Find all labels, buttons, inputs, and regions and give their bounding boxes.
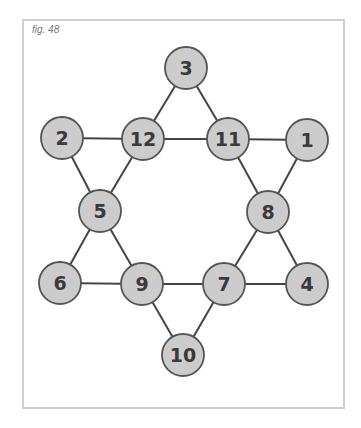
- node-10: 10: [162, 334, 204, 376]
- svg-text:6: 6: [53, 272, 66, 294]
- node-8: 8: [247, 191, 289, 233]
- svg-text:7: 7: [217, 273, 230, 295]
- node-3: 3: [165, 47, 207, 89]
- node-2: 2: [41, 117, 83, 159]
- node-6: 6: [39, 262, 81, 304]
- star-diagram: 321211158697410: [0, 0, 361, 428]
- node-1: 1: [286, 119, 328, 161]
- svg-text:3: 3: [179, 57, 192, 79]
- node-9: 9: [121, 263, 163, 305]
- svg-text:2: 2: [55, 127, 68, 149]
- svg-text:10: 10: [170, 344, 196, 366]
- svg-text:4: 4: [300, 273, 313, 295]
- node-7: 7: [203, 263, 245, 305]
- svg-text:9: 9: [135, 273, 148, 295]
- svg-text:5: 5: [93, 200, 106, 222]
- nodes: 321211158697410: [39, 47, 328, 376]
- node-11: 11: [207, 118, 249, 160]
- svg-text:1: 1: [300, 129, 313, 151]
- node-4: 4: [286, 263, 328, 305]
- svg-text:12: 12: [130, 128, 156, 150]
- node-12: 12: [122, 118, 164, 160]
- svg-text:11: 11: [215, 128, 241, 150]
- svg-text:8: 8: [261, 201, 274, 223]
- node-5: 5: [79, 190, 121, 232]
